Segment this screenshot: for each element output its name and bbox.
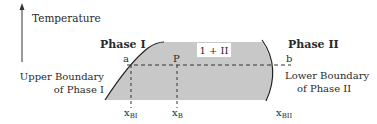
point-a-label: a: [123, 53, 129, 64]
x-bi-label: xBI: [124, 107, 138, 120]
lower-boundary-label-line1: Lower Boundary: [285, 70, 369, 81]
phase2-label: Phase II: [288, 38, 339, 51]
region-label: 1 + II: [200, 45, 229, 56]
phase-diagram: Temperature 1 + II Phase I Phase II a P …: [0, 0, 377, 124]
axis-arrow-icon: [20, 3, 25, 10]
lower-boundary-label-line2: of Phase II: [297, 83, 351, 94]
phase1-label: Phase I: [100, 38, 146, 51]
upper-boundary-label-line2: of Phase I: [54, 84, 104, 95]
point-b-label: b: [286, 53, 292, 64]
x-bii-label: xBII: [276, 107, 293, 120]
upper-boundary-label-line1: Upper Boundary: [20, 71, 105, 82]
x-b-label: xB: [172, 107, 183, 120]
axis-label: Temperature: [32, 12, 101, 24]
point-p-label: P: [173, 53, 180, 64]
